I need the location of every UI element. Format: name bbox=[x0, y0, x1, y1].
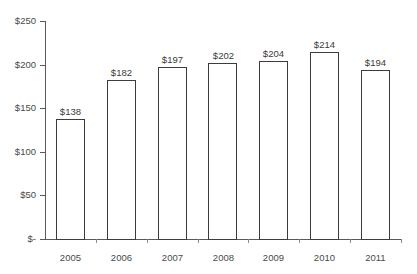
x-axis-tick bbox=[401, 239, 402, 243]
bar-value-label: $138 bbox=[45, 106, 96, 117]
bar bbox=[310, 52, 339, 240]
x-axis-tick-label: 2008 bbox=[198, 252, 249, 263]
bar bbox=[56, 119, 85, 240]
x-axis-tick bbox=[248, 239, 249, 243]
bar-value-label: $194 bbox=[350, 57, 401, 68]
y-axis-tick bbox=[40, 65, 45, 66]
bar bbox=[208, 63, 237, 240]
x-axis-tick bbox=[96, 239, 97, 243]
bar-value-label: $204 bbox=[248, 48, 299, 59]
y-axis-tick-label: $50 bbox=[20, 190, 36, 200]
y-axis-tick bbox=[40, 239, 45, 240]
x-axis-tick-label: 2010 bbox=[299, 252, 350, 263]
bar-value-label: $182 bbox=[96, 67, 147, 78]
bar-value-label: $202 bbox=[198, 50, 249, 61]
x-axis-tick-label: 2007 bbox=[147, 252, 198, 263]
bar bbox=[158, 67, 187, 240]
y-axis-tick bbox=[40, 152, 45, 153]
y-axis-tick bbox=[40, 21, 45, 22]
bar-value-label: $214 bbox=[299, 39, 350, 50]
bar bbox=[361, 70, 390, 240]
x-axis-tick-label: 2009 bbox=[248, 252, 299, 263]
y-axis-tick-label: $250 bbox=[15, 16, 36, 26]
x-axis-tick bbox=[350, 239, 351, 243]
y-axis-tick-label: $150 bbox=[15, 103, 36, 113]
x-axis-tick bbox=[198, 239, 199, 243]
y-axis-tick-label: $200 bbox=[15, 60, 36, 70]
y-axis-tick bbox=[40, 195, 45, 196]
x-axis-tick-label: 2006 bbox=[96, 252, 147, 263]
y-axis-tick-label: $100 bbox=[15, 147, 36, 157]
x-axis-tick bbox=[299, 239, 300, 243]
y-axis-tick-label: $- bbox=[28, 234, 36, 244]
bar bbox=[107, 80, 136, 240]
bar-value-label: $197 bbox=[147, 54, 198, 65]
bar bbox=[259, 61, 288, 240]
bar-chart: $-$50$100$150$200$250 $138$182$197$202$2… bbox=[0, 0, 417, 274]
x-axis-tick-label: 2005 bbox=[45, 252, 96, 263]
x-axis-tick bbox=[147, 239, 148, 243]
x-axis-tick-label: 2011 bbox=[350, 252, 401, 263]
y-axis-line bbox=[45, 21, 46, 240]
